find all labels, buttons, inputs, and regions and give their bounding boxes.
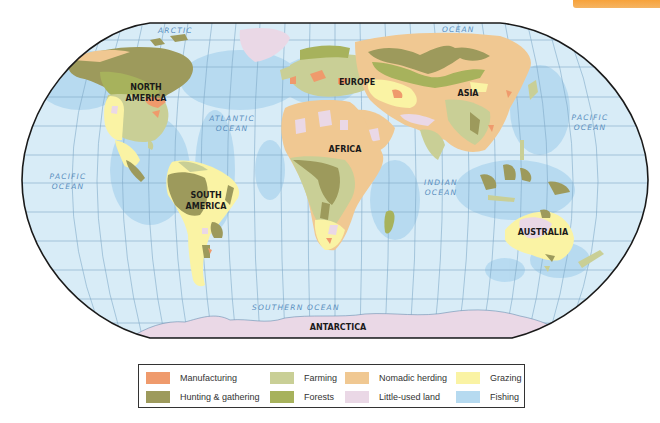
legend-item-forests: Forests: [270, 390, 334, 404]
legend-item-fishing: Fishing: [456, 390, 519, 404]
australia-label: AUSTRALIA: [518, 228, 569, 237]
southern-ocean-label: SOUTHERN OCEAN: [252, 303, 340, 312]
grazing-swatch: [456, 372, 480, 384]
nomadic-herding-swatch: [345, 372, 369, 384]
pacific-ocean-left-label: PACIFICOCEAN: [50, 172, 87, 191]
legend-item-hunting-gathering: Hunting & gathering: [146, 390, 260, 404]
manufacturing-swatch: [146, 372, 170, 384]
legend-label: Hunting & gathering: [180, 392, 260, 402]
fishing-swatch: [456, 391, 480, 403]
legend-item-grazing: Grazing: [456, 371, 522, 385]
legend-label: Nomadic herding: [379, 373, 447, 383]
pacific-ocean-right-label: PACIFICOCEAN: [572, 113, 609, 132]
legend-label: Manufacturing: [180, 373, 237, 383]
legend-label: Forests: [304, 392, 334, 402]
forests-swatch: [270, 391, 294, 403]
hunting-gathering-swatch: [146, 391, 170, 403]
legend-label: Farming: [304, 373, 337, 383]
farming-swatch: [270, 372, 294, 384]
legend-label: Little-used land: [379, 392, 440, 402]
legend-label: Fishing: [490, 392, 519, 402]
legend-item-little-used-land: Little-used land: [345, 390, 440, 404]
asia-label: ASIA: [457, 89, 479, 98]
legend-item-farming: Farming: [270, 371, 337, 385]
legend-label: Grazing: [490, 373, 522, 383]
africa-label: AFRICA: [329, 145, 363, 154]
indian-ocean-label: INDIANOCEAN: [424, 178, 458, 197]
arctic-ocean-label-1: ARCTIC: [157, 26, 193, 35]
land-use-legend: Manufacturing Farming Nomadic herding Gr…: [138, 364, 525, 408]
little-used-land-swatch: [345, 391, 369, 403]
legend-item-manufacturing: Manufacturing: [146, 371, 237, 385]
atlantic-ocean-label: ATLANTICOCEAN: [208, 114, 255, 133]
europe-label: EUROPE: [339, 78, 375, 87]
world-land-use-map: ARCTIC OCEAN ATLANTICOCEAN PACIFICOCEAN …: [0, 0, 660, 350]
legend-item-nomadic-herding: Nomadic herding: [345, 371, 447, 385]
antarctica-label: ANTARCTICA: [310, 323, 367, 332]
arctic-ocean-label-2: OCEAN: [442, 25, 475, 34]
